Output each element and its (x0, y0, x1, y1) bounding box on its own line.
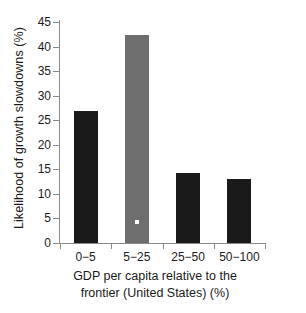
y-tick (53, 243, 59, 244)
bar-50-100 (227, 179, 251, 243)
bars-layer (0, 0, 306, 243)
x-tick (60, 244, 61, 249)
bar-0-5 (74, 111, 98, 243)
bar-5-25 (125, 35, 149, 243)
x-tick (214, 244, 215, 249)
x-tick-label: 50−100 (208, 250, 270, 264)
x-tick (163, 244, 164, 249)
bar-marker-dot (135, 220, 139, 224)
bar-chart-figure: Likelihood of growth slowdowns (%) 05101… (0, 0, 306, 313)
x-tick (111, 244, 112, 249)
x-tick (265, 244, 266, 249)
x-axis-title-line-1: GDP per capita relative to the (20, 268, 290, 285)
bar-25-50 (176, 173, 200, 243)
x-axis-title: GDP per capita relative to the frontier … (20, 268, 290, 302)
x-axis-title-line-2: frontier (United States) (%) (20, 285, 290, 302)
